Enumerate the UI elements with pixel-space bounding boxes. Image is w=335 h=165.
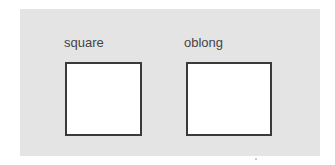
- oblong-label: oblong: [184, 36, 223, 49]
- square-shape: [65, 62, 142, 136]
- square-label: square: [64, 36, 104, 49]
- oblong-shape: [186, 62, 272, 136]
- stray-mark: [255, 158, 257, 160]
